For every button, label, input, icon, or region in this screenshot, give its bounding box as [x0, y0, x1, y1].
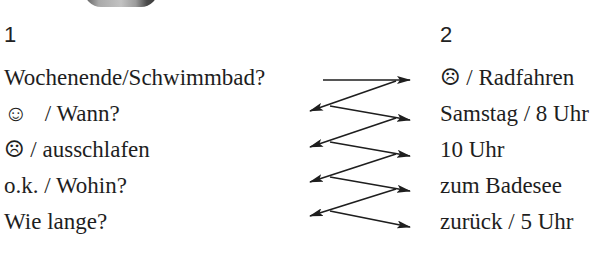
- arrow-left-icon: [310, 154, 396, 182]
- arrow-right-icon: [330, 142, 410, 156]
- arrow-right-icon: [330, 177, 410, 191]
- arrow-left-icon: [310, 189, 396, 216]
- zigzag-arrows-icon: [0, 0, 614, 266]
- arrow-right-icon: [330, 211, 410, 227]
- arrow-right-icon: [330, 106, 410, 120]
- arrow-left-icon: [310, 118, 396, 147]
- arrow-left-icon: [310, 81, 396, 111]
